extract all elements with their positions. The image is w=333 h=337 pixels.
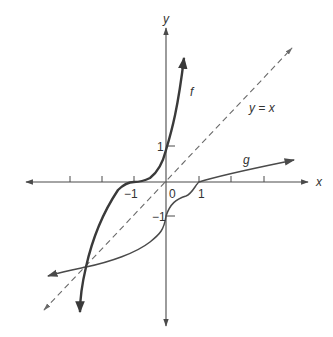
curve-g xyxy=(48,160,294,276)
origin-label: 0 xyxy=(169,187,176,201)
x-tick-label-neg1: −1 xyxy=(124,187,138,201)
y-axis-label: y xyxy=(162,12,170,26)
curve-f xyxy=(80,58,184,312)
curve-g-label: g xyxy=(243,153,250,167)
y-tick-label-1: 1 xyxy=(157,140,164,154)
x-axis-ticks xyxy=(70,176,264,182)
y-tick-label-neg1: −1 xyxy=(152,210,166,224)
identity-line-label: y = x xyxy=(248,101,276,115)
x-tick-label-1: 1 xyxy=(198,187,205,201)
inverse-function-graph: y x 0 −1 1 1 −1 f g y = x xyxy=(0,0,333,337)
curve-f-label: f xyxy=(190,85,195,99)
x-axis-label: x xyxy=(315,175,323,189)
identity-line xyxy=(44,48,292,310)
